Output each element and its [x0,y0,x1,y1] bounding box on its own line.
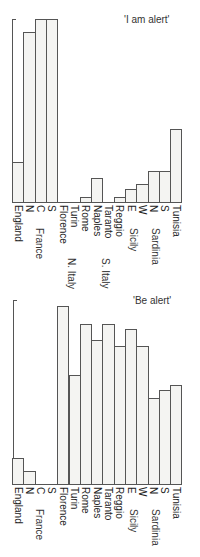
x-tick-label: Florence [58,487,69,526]
x-tick-label: W [137,487,148,496]
bar [170,385,182,484]
group-label-sicily: Sicily [128,509,139,532]
x-tick-label: N [148,487,159,494]
x-tick-label: E [126,487,137,494]
bar [23,471,35,484]
x-axis [12,484,182,485]
x-tick-label: Reggio [114,487,125,519]
group-label-sardinia: Sardinia [150,509,161,546]
x-tick-label: England [13,487,24,524]
x-tick-label: C [35,487,46,494]
x-tick-label: Rome [80,487,91,514]
group-label-france: France [34,509,45,540]
x-tick-label: S [46,487,57,494]
x-tick-label: Turin [69,487,80,509]
x-tick-label: S [159,487,170,494]
chart-be-alert: 'Be alert' EnglandNCSFlorenceTurinRomeNa… [0,0,200,557]
x-tick-label: N [24,487,35,494]
plot-area [12,300,182,484]
x-tick-label: Taranto [103,487,114,520]
x-tick-label: Tunisia [171,487,182,519]
x-tick-label: Naples [92,487,103,518]
